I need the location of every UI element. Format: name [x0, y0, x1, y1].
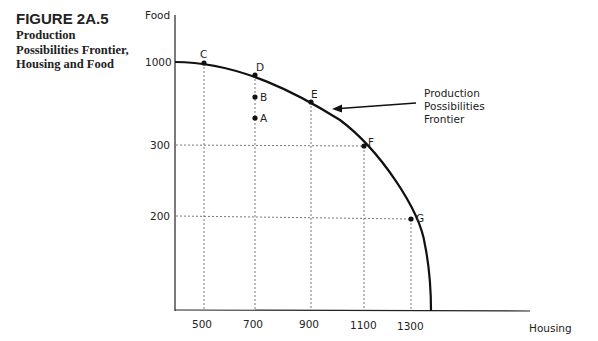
ppf-chart: C D E F G B A Food 1000 300 200 500 700 … [0, 0, 598, 341]
annotation-line-1: Production [424, 87, 480, 99]
annotation-line-2: Possibilities [424, 100, 485, 112]
point-d [252, 72, 257, 77]
y-tick-1000: 1000 [145, 56, 172, 68]
point-label-e: E [311, 88, 318, 100]
x-axis [175, 310, 530, 311]
point-label-b: B [260, 91, 267, 103]
y-tick-200: 200 [150, 210, 170, 222]
point-label-c: C [200, 48, 207, 60]
arrow-head-icon [332, 105, 342, 113]
y-axis-label: Food [145, 9, 170, 21]
point-f [361, 143, 366, 148]
data-points [201, 60, 413, 221]
point-g [408, 216, 413, 221]
guide-lines [176, 63, 411, 310]
axes [175, 15, 530, 311]
point-c [201, 60, 206, 65]
point-a [252, 115, 257, 120]
point-label-g: G [416, 212, 424, 224]
point-label-f: F [368, 136, 374, 148]
point-label-d: D [256, 61, 264, 73]
x-tick-1300: 1300 [397, 320, 424, 332]
x-axis-label: Housing [529, 322, 572, 334]
x-tick-900: 900 [299, 318, 319, 330]
point-b [252, 94, 257, 99]
point-label-a: A [260, 112, 268, 124]
annotation-line-3: Frontier [424, 113, 465, 125]
point-e [308, 99, 313, 104]
x-tick-500: 500 [192, 318, 212, 330]
x-tick-700: 700 [243, 318, 263, 330]
x-tick-1100: 1100 [350, 319, 377, 331]
frontier-curve [175, 62, 431, 311]
annotation-arrow-line [340, 103, 416, 109]
y-tick-300: 300 [150, 139, 170, 151]
